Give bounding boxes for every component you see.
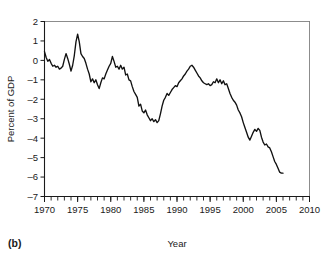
data-series-group	[45, 34, 284, 173]
y-tick-label: –4	[27, 133, 38, 144]
y-tick-label: –3	[27, 113, 38, 124]
y-tick-label: 0	[33, 55, 38, 66]
y-axis-ticks	[41, 22, 45, 197]
x-axis-tick-labels: 197019751980198519901995200020052010	[34, 204, 320, 215]
y-tick-label: –7	[27, 191, 38, 202]
x-tick-label: 1985	[133, 204, 154, 215]
chart-svg: 210–1–2–3–4–5–6–7 1970197519801985199019…	[0, 0, 326, 260]
series-line-federal-budget	[45, 34, 284, 173]
x-tick-label: 1970	[34, 204, 55, 215]
x-axis: 197019751980198519901995200020052010	[34, 197, 320, 215]
x-tick-label: 1995	[200, 204, 221, 215]
y-axis-tick-labels: 210–1–2–3–4–5–6–7	[27, 16, 38, 202]
figure-panel: 210–1–2–3–4–5–6–7 1970197519801985199019…	[0, 0, 326, 260]
plot-frame	[44, 22, 310, 197]
x-tick-label: 1975	[67, 204, 88, 215]
x-tick-label: 2005	[266, 204, 287, 215]
x-tick-label: 1980	[100, 204, 121, 215]
y-tick-label: 1	[33, 35, 38, 46]
y-tick-label: 2	[33, 16, 38, 27]
x-tick-label: 2010	[299, 204, 320, 215]
y-tick-label: –6	[27, 171, 38, 182]
y-tick-label: –5	[27, 152, 38, 163]
panel-label: (b)	[8, 237, 21, 249]
x-tick-label: 1990	[166, 204, 187, 215]
x-axis-title: Year	[167, 238, 186, 249]
y-axis: 210–1–2–3–4–5–6–7	[27, 16, 44, 202]
x-tick-label: 2000	[233, 204, 254, 215]
y-axis-title: Percent of GDP	[5, 76, 16, 143]
y-tick-label: –1	[27, 74, 38, 85]
y-tick-label: –2	[27, 94, 38, 105]
